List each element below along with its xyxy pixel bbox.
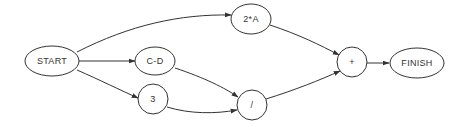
node-finish: FINISH — [390, 48, 444, 78]
dataflow-diagram: STARTC-D32*A/+FINISH — [0, 0, 471, 127]
node-start: START — [25, 46, 79, 76]
node-twoA: 2*A — [231, 4, 271, 34]
node-plus-label: + — [349, 57, 355, 67]
edge--to- — [266, 71, 340, 99]
node-plus: + — [337, 47, 367, 77]
node-div: / — [237, 90, 267, 120]
node-cd-label: C-D — [147, 56, 164, 66]
node-finish-label: FINISH — [401, 58, 432, 68]
node-twoA-label: 2*A — [243, 14, 258, 24]
diagram-canvas: STARTC-D32*A/+FINISH — [0, 0, 471, 127]
edge-cd-to- — [175, 68, 238, 97]
node-cd: C-D — [135, 47, 175, 75]
node-three: 3 — [138, 84, 168, 114]
node-div-label: / — [251, 100, 254, 110]
node-three-label: 3 — [150, 94, 155, 104]
edge-start-to-2a — [77, 15, 231, 52]
edge-2a-to- — [270, 25, 339, 55]
node-start-label: START — [37, 56, 67, 66]
edge-start-to-3 — [77, 70, 138, 98]
edge-3-to- — [167, 107, 237, 113]
nodes-layer: STARTC-D32*A/+FINISH — [25, 4, 444, 120]
